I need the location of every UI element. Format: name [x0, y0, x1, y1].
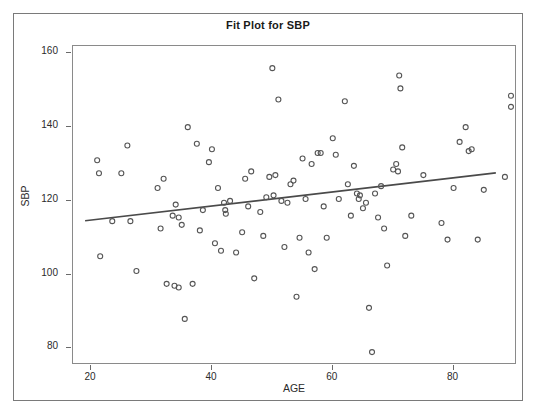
regression-fit-line [85, 173, 496, 221]
data-point [421, 173, 426, 178]
data-point [395, 169, 400, 174]
data-point [391, 167, 396, 172]
x-axis-tick-label: 60 [312, 371, 352, 382]
data-point [439, 221, 444, 226]
x-axis-tick-mark [332, 365, 333, 370]
x-axis-title: AGE [72, 382, 516, 394]
data-point [333, 152, 338, 157]
data-point [291, 178, 296, 183]
data-point [261, 233, 266, 238]
y-axis-tick-label: 80 [18, 340, 58, 351]
data-point [321, 204, 326, 209]
data-point [215, 185, 220, 190]
data-point [212, 241, 217, 246]
data-point [303, 197, 308, 202]
data-point [209, 147, 214, 152]
data-point [276, 97, 281, 102]
data-point [252, 276, 257, 281]
data-point [246, 204, 251, 209]
data-point [240, 230, 245, 235]
data-point [282, 244, 287, 249]
data-point [367, 305, 372, 310]
data-point [481, 187, 486, 192]
data-point [351, 163, 356, 168]
data-point [403, 233, 408, 238]
data-point [385, 263, 390, 268]
data-point [409, 213, 414, 218]
data-point [164, 281, 169, 286]
y-axis-tick-label: 120 [18, 193, 58, 204]
data-point [185, 125, 190, 130]
data-point [155, 185, 160, 190]
data-point-group [95, 66, 514, 355]
data-point [400, 145, 405, 150]
y-axis-tick-label: 160 [18, 45, 58, 56]
data-point [194, 141, 199, 146]
data-point [463, 125, 468, 130]
data-point [243, 176, 248, 181]
y-axis-tick-mark [66, 52, 71, 53]
data-point [249, 169, 254, 174]
data-point [360, 206, 365, 211]
x-axis-tick-mark [90, 365, 91, 370]
data-point [95, 158, 100, 163]
data-point [309, 162, 314, 167]
data-point [258, 209, 263, 214]
data-point [267, 174, 272, 179]
data-point [173, 202, 178, 207]
data-point [398, 86, 403, 91]
data-point [330, 136, 335, 141]
data-point [161, 176, 166, 181]
data-point [170, 213, 175, 218]
data-point [373, 191, 378, 196]
data-point [119, 171, 124, 176]
data-point [125, 143, 130, 148]
data-point [502, 174, 507, 179]
data-point [179, 222, 184, 227]
y-axis-tick-mark [66, 347, 71, 348]
data-point [306, 250, 311, 255]
y-axis-tick-label: 100 [18, 267, 58, 278]
x-axis-tick-label: 40 [191, 371, 231, 382]
plot-area [72, 45, 516, 364]
data-point [348, 213, 353, 218]
data-point [134, 268, 139, 273]
data-point [200, 208, 205, 213]
y-axis-tick-mark [66, 200, 71, 201]
data-point [336, 197, 341, 202]
data-point [445, 237, 450, 242]
data-point [345, 182, 350, 187]
data-point [219, 248, 224, 253]
x-axis-tick-mark [453, 365, 454, 370]
data-point [370, 350, 375, 355]
page-title: Fit Plot for SBP [13, 19, 523, 31]
data-point [451, 185, 456, 190]
x-axis-tick-label: 80 [433, 371, 473, 382]
data-point [158, 226, 163, 231]
data-point [228, 198, 233, 203]
data-point [110, 219, 115, 224]
data-point [297, 235, 302, 240]
data-point [324, 235, 329, 240]
data-point [270, 66, 275, 71]
data-point [285, 200, 290, 205]
data-point [376, 215, 381, 220]
data-point [273, 173, 278, 178]
data-point [176, 215, 181, 220]
data-point [234, 250, 239, 255]
data-point [279, 198, 284, 203]
data-point [271, 193, 276, 198]
data-point [508, 93, 513, 98]
data-point [508, 104, 513, 109]
data-point [98, 254, 103, 259]
data-point [363, 200, 368, 205]
data-point [475, 237, 480, 242]
data-point [190, 281, 195, 286]
fit-line [85, 173, 496, 221]
data-point [312, 267, 317, 272]
scatter-canvas [73, 46, 517, 365]
fit-plot-screenshot: Fit Plot for SBP SBP AGE 801001201401602… [0, 0, 538, 416]
data-point [197, 228, 202, 233]
y-axis-tick-label: 140 [18, 119, 58, 130]
data-point [96, 171, 101, 176]
